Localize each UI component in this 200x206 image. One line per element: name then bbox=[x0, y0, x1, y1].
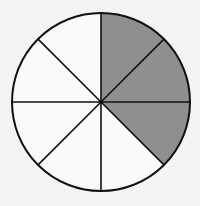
fraction-circle-diagram bbox=[0, 0, 200, 206]
center-point bbox=[99, 100, 103, 104]
